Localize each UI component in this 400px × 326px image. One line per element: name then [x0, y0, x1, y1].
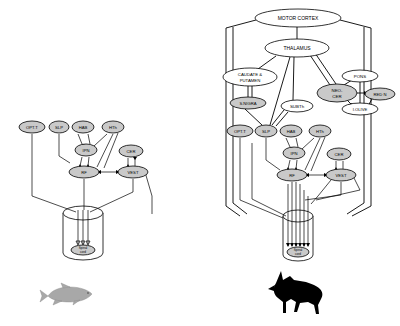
comparative-neuroanatomy-diagram: Spinal cord: [0, 0, 400, 326]
fish-node-hth[interactable]: HTh: [102, 121, 124, 133]
mammal-spinal-cord-cylinder: Spinal cord: [283, 210, 313, 261]
mammal-node-red-n[interactable]: RED N: [365, 88, 395, 100]
fish-node-slp-label: SLP: [55, 125, 63, 130]
fish-node-slp[interactable]: SLP: [49, 121, 69, 133]
fish-node-ipn[interactable]: IPN: [75, 144, 97, 156]
fish-panel: Spinal cord: [19, 121, 152, 305]
mammal-node-neo-cer-label-2: CER: [332, 94, 341, 99]
mammal-node-s-nigra[interactable]: S.NIGRA: [230, 97, 266, 109]
fish-node-cer-label: CER: [127, 149, 136, 154]
fish-node-hab[interactable]: HAB: [72, 121, 94, 133]
mammal-node-vest[interactable]: VEST: [326, 169, 356, 181]
fish-node-rf[interactable]: RF: [69, 166, 99, 178]
mammal-node-slp[interactable]: SLP: [255, 125, 277, 137]
fish-node-vest[interactable]: VEST: [118, 166, 148, 178]
mammal-node-neo-cer-label-1: NEO-: [332, 88, 344, 93]
mammal-node-subth[interactable]: SUBTh: [281, 100, 313, 112]
fish-node-ipn-label: IPN: [83, 148, 90, 153]
fish-node-vest-label: VEST: [128, 170, 139, 175]
mammal-node-rf[interactable]: RF: [277, 169, 307, 181]
fish-node-rf-label: RF: [81, 170, 87, 175]
mammal-node-optt-label: OPT.T: [234, 129, 246, 134]
fish-node-hth-label: HTh: [109, 125, 118, 130]
mammal-spinal-label-2: cord: [295, 252, 301, 256]
mammal-node-pons[interactable]: PONS: [342, 70, 378, 82]
mammal-node-i-olive-label: I.OLIVE: [353, 107, 368, 112]
fish-node-hab-label: HAB: [79, 125, 88, 130]
mammal-node-motor-cortex-label: MOTOR CORTEX: [278, 15, 319, 21]
mammal-node-hth-label: HTh: [316, 129, 325, 134]
mammal-node-cer-label: CER: [335, 152, 344, 157]
mammal-node-cer[interactable]: CER: [327, 148, 351, 160]
mammal-node-neo-cer[interactable]: NEO- CER: [317, 84, 357, 102]
mammal-node-caudate-putamen[interactable]: CAUDATE & PUTAMEN: [223, 68, 277, 86]
mammal-node-i-olive[interactable]: I.OLIVE: [342, 103, 378, 115]
mammal-node-hab-label: HAB: [287, 129, 296, 134]
fish-spinal-label-2: cord: [80, 250, 86, 254]
mammal-node-caudate-label-1: CAUDATE &: [238, 72, 262, 77]
mammal-node-s-nigra-label: S.NIGRA: [239, 101, 256, 106]
mammal-node-thalamus-label: THALAMUS: [283, 45, 311, 51]
mammal-node-ipn-label: IPN: [291, 151, 298, 156]
mammal-node-ipn[interactable]: IPN: [283, 147, 305, 159]
diagram-canvas: Spinal cord: [0, 0, 400, 326]
dog-silhouette: [268, 271, 322, 314]
mammal-node-hth[interactable]: HTh: [309, 125, 331, 137]
mammal-node-optt[interactable]: OPT.T: [227, 125, 253, 137]
fish-silhouette: [40, 283, 92, 305]
fish-node-cer[interactable]: CER: [119, 145, 143, 157]
fish-node-optt-label: OPT.T: [26, 125, 38, 130]
mammal-node-caudate-label-2: PUTAMEN: [240, 78, 261, 83]
mammal-node-red-n-label: RED N: [373, 92, 386, 97]
mammal-node-pons-label: PONS: [354, 74, 367, 79]
mammal-node-thalamus[interactable]: THALAMUS: [265, 39, 329, 57]
fish-descending-tracts: [76, 210, 90, 245]
mammal-node-motor-cortex[interactable]: MOTOR CORTEX: [255, 9, 341, 27]
mammal-node-slp-label: SLP: [262, 129, 270, 134]
mammal-node-hab[interactable]: HAB: [280, 125, 302, 137]
mammal-panel: Spinal cord: [223, 9, 395, 314]
mammal-node-subth-label: SUBTh: [290, 104, 305, 109]
fish-node-optt[interactable]: OPT.T: [19, 121, 45, 133]
mammal-node-rf-label: RF: [289, 173, 295, 178]
mammal-node-vest-label: VEST: [336, 173, 347, 178]
